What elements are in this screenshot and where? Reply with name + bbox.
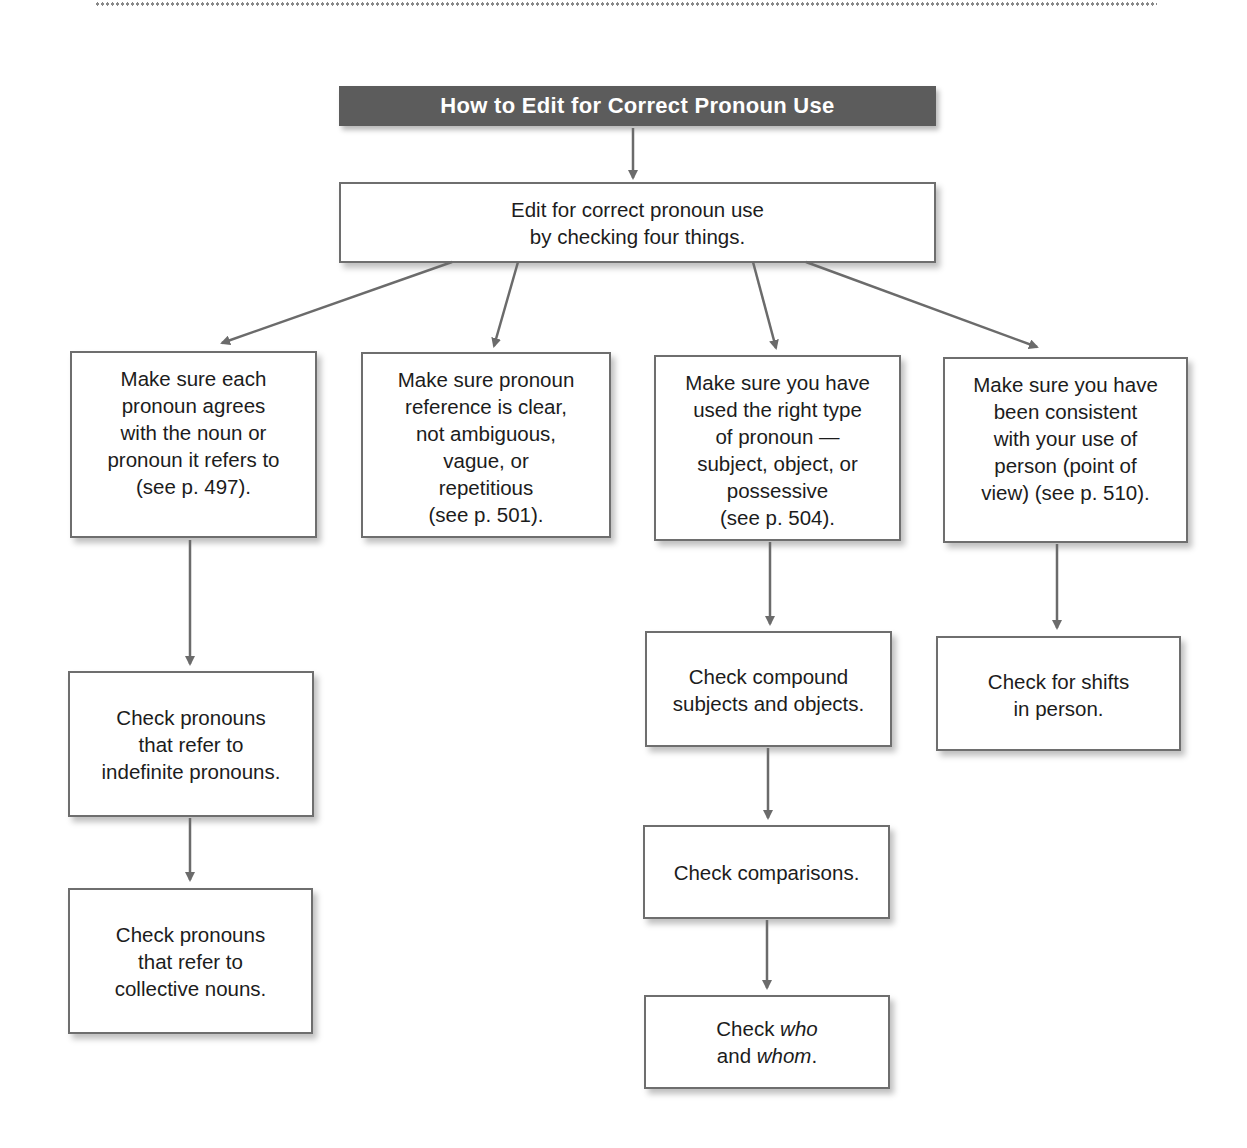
arrow-root-to-consistency	[806, 262, 1037, 347]
compound-subjects-node: Check compound subjects and objects.	[645, 631, 892, 747]
root-node: Edit for correct pronoun use by checking…	[339, 182, 936, 263]
who-whom-text: Check who and whom.	[716, 1015, 817, 1069]
root-node-text: Edit for correct pronoun use by checking…	[511, 196, 764, 250]
branch-type-node: Make sure you have used the right type o…	[654, 355, 901, 541]
diagram-title: How to Edit for Correct Pronoun Use	[339, 86, 936, 126]
shifts-in-person-text: Check for shifts in person.	[988, 668, 1129, 722]
branch-consistency-node: Make sure you have been consistent with …	[943, 357, 1188, 543]
collective-nouns-node: Check pronouns that refer to collective …	[68, 888, 313, 1034]
branch-reference-node: Make sure pronoun reference is clear, no…	[361, 352, 611, 538]
indefinite-pronouns-node: Check pronouns that refer to indefinite …	[68, 671, 314, 817]
arrow-root-to-type	[753, 262, 776, 348]
who-whom-node: Check who and whom.	[644, 995, 890, 1089]
collective-nouns-text: Check pronouns that refer to collective …	[115, 921, 267, 1002]
branch-reference-text: Make sure pronoun reference is clear, no…	[398, 366, 575, 528]
comparisons-text: Check comparisons.	[674, 859, 860, 886]
indefinite-pronouns-text: Check pronouns that refer to indefinite …	[102, 704, 281, 785]
branch-type-text: Make sure you have used the right type o…	[685, 369, 870, 531]
diagram-title-text: How to Edit for Correct Pronoun Use	[440, 93, 834, 119]
shifts-in-person-node: Check for shifts in person.	[936, 636, 1181, 751]
comparisons-node: Check comparisons.	[643, 825, 890, 919]
arrow-root-to-agreement	[222, 262, 452, 343]
compound-subjects-text: Check compound subjects and objects.	[673, 663, 864, 717]
arrow-root-to-reference	[494, 262, 518, 346]
branch-agreement-text: Make sure each pronoun agrees with the n…	[107, 365, 279, 500]
branch-agreement-node: Make sure each pronoun agrees with the n…	[70, 351, 317, 538]
dotted-top-rule	[95, 1, 1157, 7]
branch-consistency-text: Make sure you have been consistent with …	[973, 371, 1158, 506]
